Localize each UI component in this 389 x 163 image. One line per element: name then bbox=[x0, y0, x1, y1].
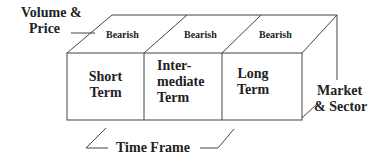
short-term-line2: Term bbox=[68, 85, 143, 101]
long-term-line2: Term bbox=[223, 82, 283, 98]
front-cell-intermediate-term: Inter- mediate Term bbox=[145, 58, 221, 106]
top-divider-1 bbox=[144, 15, 187, 53]
top-cell-short-bearish: Bearish bbox=[106, 30, 139, 40]
market-sector-line1: Market bbox=[314, 84, 367, 98]
top-divider-2 bbox=[222, 15, 261, 53]
market-sector-line2: & Sector bbox=[314, 100, 367, 114]
volume-price-line2: Price bbox=[21, 22, 82, 36]
intermediate-term-line1: Inter- bbox=[157, 58, 221, 74]
time-frame-label: Time Frame bbox=[116, 141, 190, 155]
timeframe-left-diag bbox=[86, 128, 106, 148]
top-right-edge bbox=[302, 15, 337, 53]
front-cell-short-term: Short Term bbox=[68, 69, 143, 101]
intermediate-term-line2: mediate bbox=[157, 74, 221, 90]
front-cell-long-term: Long Term bbox=[223, 66, 283, 98]
short-term-line1: Short bbox=[68, 69, 143, 85]
volume-price-line1: Volume & bbox=[21, 6, 82, 20]
top-cell-intermediate-bearish: Bearish bbox=[184, 30, 217, 40]
timeframe-right-diag bbox=[218, 129, 234, 148]
market-sector-label: Market & Sector bbox=[314, 84, 367, 114]
long-term-line1: Long bbox=[223, 66, 283, 82]
top-cell-long-bearish: Bearish bbox=[259, 30, 292, 40]
intermediate-term-line3: Term bbox=[157, 90, 221, 106]
volume-price-label: Volume & Price bbox=[21, 6, 82, 36]
